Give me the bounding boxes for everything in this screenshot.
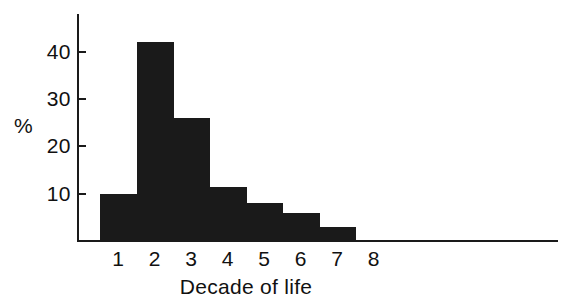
- y-tick-label-wrap: 30: [0, 88, 71, 109]
- y-tick-label: 20: [47, 135, 71, 156]
- x-tick-label: 7: [317, 247, 357, 271]
- x-tick-label: 6: [281, 247, 321, 271]
- x-tick-label: 4: [208, 247, 248, 271]
- y-tick-label-wrap: 40: [0, 41, 71, 62]
- histogram-bar: [210, 187, 247, 241]
- histogram-bar: [100, 194, 137, 241]
- bars-layer: [78, 14, 558, 241]
- x-tick-label: 8: [354, 247, 394, 271]
- x-axis-title: Decade of life: [31, 275, 461, 299]
- y-tick-label-wrap: 10: [0, 183, 71, 204]
- histogram-bar: [173, 118, 210, 241]
- x-tick-label: 2: [135, 247, 175, 271]
- histogram-bar: [246, 203, 283, 241]
- histogram-bar: [137, 42, 174, 241]
- x-tick-label: 5: [244, 247, 284, 271]
- y-tick-label-wrap: 20: [0, 135, 71, 156]
- histogram-bar: [319, 227, 356, 241]
- histogram-figure: 10203040 12345678 % Decade of life: [0, 0, 573, 308]
- y-tick-label: 10: [47, 183, 71, 204]
- histogram-bar: [283, 213, 320, 241]
- x-tick-label: 3: [171, 247, 211, 271]
- y-axis-title: %: [14, 114, 33, 138]
- y-tick-label: 30: [47, 88, 71, 109]
- x-tick-label: 1: [98, 247, 138, 271]
- y-tick-label: 40: [47, 41, 71, 62]
